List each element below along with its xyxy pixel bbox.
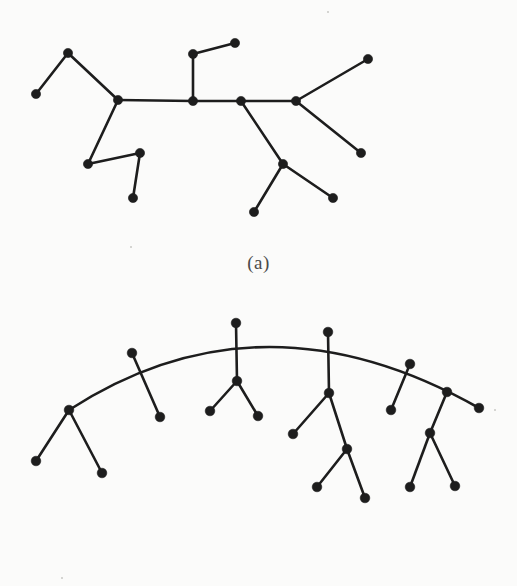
tree-edge	[293, 393, 329, 434]
tree-edge	[296, 101, 361, 153]
tree-node-arc-left-end-junction	[64, 405, 74, 415]
tree-edge	[328, 332, 329, 393]
tree-edge	[237, 381, 258, 416]
tree-node-arc-node-left	[127, 348, 137, 358]
tree-edge	[283, 164, 333, 198]
tree-node-leaf-center-right	[253, 411, 263, 421]
tree-node-leaf-far-right-upper	[386, 405, 396, 415]
tree-edge	[430, 392, 447, 433]
tree-edge	[254, 164, 283, 212]
tree-edge	[410, 433, 430, 487]
tree-edge	[317, 449, 347, 487]
tree-edge	[193, 43, 235, 54]
tree-node-leaf-bottom-right	[328, 193, 337, 202]
tree-node-leaf-right-upper-left	[288, 429, 298, 439]
tree-edge	[133, 153, 140, 198]
tree-node-arc-right-end-leaf	[474, 403, 484, 413]
tree-node-leaf-left-lower	[97, 468, 107, 478]
tree-edge	[118, 100, 193, 101]
tree-edge	[88, 153, 140, 164]
figure-panel-a: (a)	[0, 0, 517, 290]
figure-panel-b: (b)	[0, 290, 517, 586]
tree-node-leaf-bottom-left	[128, 193, 137, 202]
tree-node-spine-center-node	[188, 96, 197, 105]
tree-node-leaf-right-lower-left	[312, 482, 322, 492]
tree-node-arc-node-center-right	[323, 327, 333, 337]
tree-node-leaf-upper-left	[31, 89, 40, 98]
tree-node-leaf-far-right-bottom-l	[405, 482, 415, 492]
tree-node-leaf-upper-right	[363, 54, 372, 63]
tree-node-branch-upper-left	[63, 48, 72, 57]
tree-node-spine-left-junction	[113, 95, 122, 104]
tree-node-leaf-left-mid	[155, 412, 165, 422]
tree-diagram-a	[0, 0, 517, 290]
tree-node-leaf-top-center-right	[230, 38, 239, 47]
tree-node-arc-apex-node	[231, 318, 241, 328]
tree-node-leaf-lower-right	[356, 148, 365, 157]
tree-node-stem-above-center	[188, 49, 197, 58]
tree-node-leaf-center-left	[205, 406, 215, 416]
tree-edge	[69, 410, 102, 473]
tree-node-arc-node-right	[405, 359, 415, 369]
tree-node-arc-node-far-right	[442, 387, 452, 397]
tree-edge	[88, 100, 118, 164]
tree-node-leaf-far-right-bottom-r	[450, 481, 460, 491]
tree-edge	[36, 410, 69, 461]
tree-node-branch-lower-left	[83, 159, 92, 168]
figure-page: (a) (b)	[0, 0, 517, 586]
tree-node-leaf-right-lower-right	[360, 493, 370, 503]
panel-a-caption: (a)	[0, 252, 517, 274]
tree-edge	[430, 433, 455, 486]
tree-edge	[36, 53, 68, 94]
tree-edge	[241, 101, 283, 164]
tree-node-branch-lower-left-hook	[135, 148, 144, 157]
tree-node-leaf-bottom-center	[249, 207, 258, 216]
tree-diagram-b	[0, 290, 517, 586]
tree-node-branch-far-right	[425, 428, 435, 438]
tree-edge	[68, 53, 118, 100]
tree-node-branch-lower-right	[278, 159, 287, 168]
tree-node-spine-mid-right-node	[236, 96, 245, 105]
tree-edge	[347, 449, 365, 498]
tree-edge	[329, 393, 347, 449]
tree-node-branch-right-lower	[342, 444, 352, 454]
tree-node-spine-right-junction	[291, 96, 300, 105]
tree-edge	[236, 323, 237, 381]
tree-node-branch-right-upper	[324, 388, 334, 398]
tree-edge	[296, 59, 368, 101]
tree-edge	[132, 353, 160, 417]
tree-node-leaf-far-left	[31, 456, 41, 466]
tree-edge	[210, 381, 237, 411]
tree-node-branch-center	[232, 376, 242, 386]
